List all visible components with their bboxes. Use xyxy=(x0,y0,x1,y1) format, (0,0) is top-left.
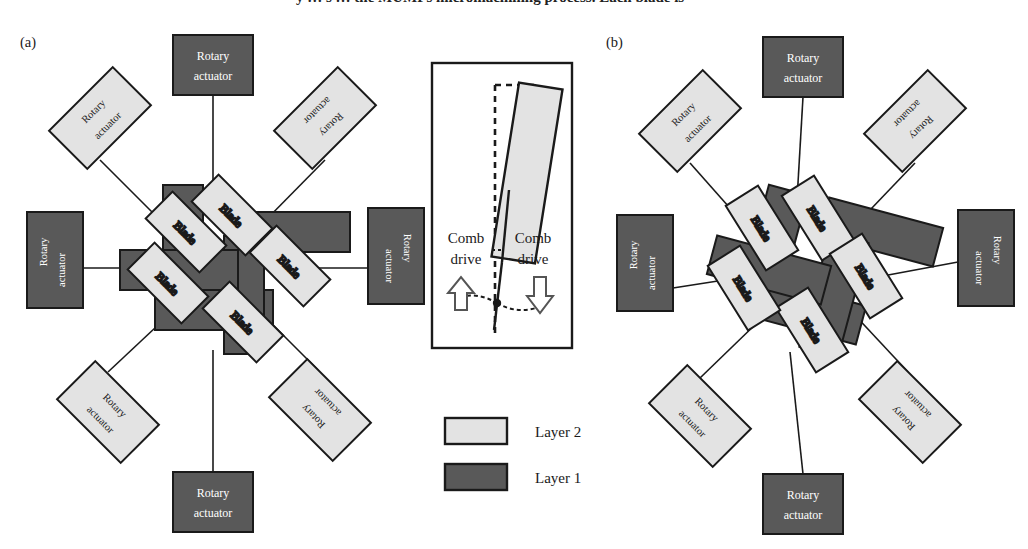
actuator-bottom-right: Rotary actuator xyxy=(269,359,371,461)
legend-item-layer1: Layer 1 xyxy=(445,464,581,490)
panel-b-label: (b) xyxy=(606,34,623,51)
actuator-top: Rotary actuator xyxy=(173,35,253,95)
legend: Layer 2 Layer 1 xyxy=(445,418,581,490)
actuator-label-line1: Rotary xyxy=(992,236,1003,265)
comb-drive-left-label-line1: Comb xyxy=(448,230,485,246)
actuator-left: Rotary actuator xyxy=(27,212,83,308)
panel-b: (b) xyxy=(606,34,1014,534)
actuator-bottom: Rotary actuator xyxy=(763,474,843,534)
actuator-body xyxy=(57,361,159,463)
actuator-label-line1: Rotary xyxy=(787,51,820,65)
actuator-top: Rotary actuator xyxy=(763,37,843,97)
actuator-right: Rotary actuator xyxy=(368,208,424,304)
actuator-label-line2: actuator xyxy=(384,249,395,283)
actuator-bottom: Rotary actuator xyxy=(173,472,253,532)
actuator-body xyxy=(27,212,83,308)
actuator-body xyxy=(173,35,253,95)
actuator-label-line1: Rotary xyxy=(628,240,639,269)
actuator-label-line1: Rotary xyxy=(402,234,413,263)
actuator-label-line2: actuator xyxy=(784,71,823,85)
actuator-label-line1: Rotary xyxy=(787,488,820,502)
actuator-label-line1: Rotary xyxy=(38,237,49,266)
actuator-body xyxy=(639,70,741,172)
actuator-label-line2: actuator xyxy=(194,69,233,83)
actuator-label-line2: actuator xyxy=(784,508,823,522)
actuator-body xyxy=(649,365,751,467)
actuator-body xyxy=(49,67,151,169)
actuator-body xyxy=(269,359,371,461)
actuator-top-left: Rotary actuator xyxy=(49,67,151,169)
actuator-body xyxy=(763,474,843,534)
panel-a: (a) Blade xyxy=(20,34,424,532)
connector-bottom xyxy=(790,352,803,474)
actuator-label-line2: actuator xyxy=(646,256,657,290)
actuator-body xyxy=(617,215,673,311)
actuator-bottom-left: Rotary actuator xyxy=(57,361,159,463)
actuator-label-line2: actuator xyxy=(194,506,233,520)
panel-a-label: (a) xyxy=(20,34,36,51)
actuator-top-right: Rotary actuator xyxy=(864,70,966,172)
actuator-top-right: Rotary actuator xyxy=(274,67,376,169)
legend-swatch-layer1 xyxy=(445,464,507,490)
comb-drive-left-label-line2: drive xyxy=(451,251,482,267)
actuator-body xyxy=(958,210,1014,306)
actuator-body xyxy=(173,472,253,532)
actuator-body xyxy=(859,361,961,463)
actuator-label-line2: actuator xyxy=(56,253,67,287)
actuator-right: Rotary actuator xyxy=(958,210,1014,306)
actuator-left: Rotary actuator xyxy=(617,215,673,311)
comb-drive-right-label-line2: drive xyxy=(518,251,549,267)
actuator-label-line1: Rotary xyxy=(197,49,230,63)
legend-item-layer2: Layer 2 xyxy=(445,418,581,444)
actuator-label-line1: Rotary xyxy=(197,486,230,500)
actuator-top-left: Rotary actuator xyxy=(639,70,741,172)
comb-drive-inset: Comb drive Comb drive xyxy=(432,63,572,348)
mems-iris-figure: (a) Blade xyxy=(0,0,1028,549)
legend-label-layer1: Layer 1 xyxy=(535,470,581,486)
legend-swatch-layer2 xyxy=(445,418,507,444)
comb-drive-right-label-line1: Comb xyxy=(515,230,552,246)
actuator-body xyxy=(864,70,966,172)
actuator-body xyxy=(763,37,843,97)
actuator-bottom-left: Rotary actuator xyxy=(649,365,751,467)
actuator-bottom-right: Rotary actuator xyxy=(859,361,961,463)
actuator-body xyxy=(274,67,376,169)
actuator-label-line2: actuator xyxy=(974,251,985,285)
legend-label-layer2: Layer 2 xyxy=(535,424,581,440)
actuator-body xyxy=(368,208,424,304)
